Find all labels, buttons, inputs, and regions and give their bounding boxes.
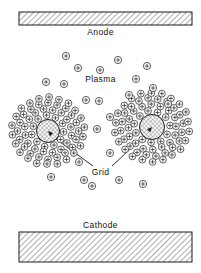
plasma-ion <box>62 52 69 59</box>
sheath-ion <box>169 144 176 151</box>
sheath-ion <box>172 132 179 139</box>
sheath-ion <box>182 137 189 144</box>
sheath-ion <box>80 133 87 140</box>
sheath-ion <box>162 150 169 157</box>
sheath-ion <box>17 119 24 126</box>
sheath-ion <box>149 146 156 153</box>
sheath-ion <box>17 149 24 156</box>
sheath-ion <box>30 123 37 130</box>
sheath-ion <box>148 101 155 108</box>
plasma-ion <box>88 182 95 189</box>
sheath-ion <box>54 160 61 167</box>
sheath-ion <box>28 106 35 113</box>
sheath-ion <box>164 131 171 138</box>
plasma-ion <box>106 149 113 156</box>
sheath-ion <box>128 103 135 110</box>
sheath-ion <box>26 116 33 123</box>
cathode-bar <box>19 232 192 262</box>
sheath-ion <box>81 124 88 131</box>
sheath-ion <box>169 151 176 158</box>
sheath-ion <box>119 118 126 125</box>
plasma-ion <box>125 91 132 98</box>
grid-label: Grid <box>0 168 201 177</box>
sheath-ion <box>115 138 122 145</box>
sheath-ion <box>132 129 139 136</box>
sheath-ion <box>9 131 16 138</box>
plasma-ion <box>93 125 100 132</box>
sheath-ion <box>186 128 193 135</box>
anode-label: Anode <box>0 28 201 37</box>
sheath-ion <box>13 113 20 120</box>
plasma-ion <box>139 180 146 187</box>
anode-bar <box>19 12 192 25</box>
sheath-ion <box>25 155 32 162</box>
sheath-ion <box>72 107 79 114</box>
sheath-ion <box>78 115 85 122</box>
sheath-ion <box>73 136 80 143</box>
plasma-ion <box>95 97 102 104</box>
sheath-ion <box>22 132 29 139</box>
sheath-ion <box>65 100 72 107</box>
plasma-ion <box>74 64 81 71</box>
sheath-ion <box>115 110 122 117</box>
sheath-ion <box>36 154 43 161</box>
sheath-ion <box>112 129 119 136</box>
plasma-ion <box>164 100 171 107</box>
sheath-ion <box>177 146 184 153</box>
sheath-ion <box>43 112 50 119</box>
sheath-ion <box>178 129 185 136</box>
sheath-ion <box>28 131 35 138</box>
sheath-ion <box>126 116 133 123</box>
sheath-ion <box>139 156 146 163</box>
sheath-ion <box>122 146 129 153</box>
sheath-ion <box>185 118 192 125</box>
sheath-ion <box>158 90 165 97</box>
sheath-ion <box>18 105 25 112</box>
sheath-ion <box>60 128 67 135</box>
diagram-canvas <box>0 0 201 273</box>
sheath-ion <box>157 103 164 110</box>
sheath-ion <box>9 122 16 129</box>
sheath-ion <box>54 154 61 161</box>
sheath-ion <box>77 142 84 149</box>
plasma-ion <box>75 158 82 165</box>
sheath-ion <box>173 123 180 130</box>
sheath-ion <box>176 101 183 108</box>
plasma-ion <box>96 66 103 73</box>
sheath-ion <box>27 100 34 107</box>
plasma-ion <box>143 62 150 69</box>
sheath-ion <box>44 161 51 168</box>
plasma-ion <box>149 84 156 91</box>
sheath-ion <box>135 98 142 105</box>
sheath-ion <box>46 94 53 101</box>
plasma-ion <box>106 113 113 120</box>
cathode-label: Cathode <box>0 221 201 230</box>
sheath-ion <box>137 90 144 97</box>
plasma-grid-diagram: Anode Plasma Grid Cathode <box>0 0 201 273</box>
sheath-ion <box>125 124 132 131</box>
sheath-ion <box>40 148 47 155</box>
plasma-ion <box>80 176 87 183</box>
sheath-ion <box>70 150 77 157</box>
plasma-ion <box>82 96 89 103</box>
sheath-ion <box>121 102 128 109</box>
sheath-ion <box>121 110 128 117</box>
sheath-ion <box>129 153 136 160</box>
sheath-ion <box>63 156 70 163</box>
sheath-ion <box>183 109 190 116</box>
sheath-ion <box>149 159 156 166</box>
plasma-ion <box>114 56 121 63</box>
sheath-ion <box>35 95 42 102</box>
plasma-label: Plasma <box>0 75 201 84</box>
sheath-ion <box>56 96 63 103</box>
sheath-ion <box>145 108 152 115</box>
sheath-ion <box>33 160 40 167</box>
sheath-ion <box>62 149 69 156</box>
sheath-ion <box>20 111 27 118</box>
sheath-ion <box>33 138 40 145</box>
sheath-ion <box>12 140 19 147</box>
sheath-ion <box>136 113 143 120</box>
sheath-ion <box>160 156 167 163</box>
sheath-ion <box>148 139 155 146</box>
plasma-ion <box>115 176 122 183</box>
